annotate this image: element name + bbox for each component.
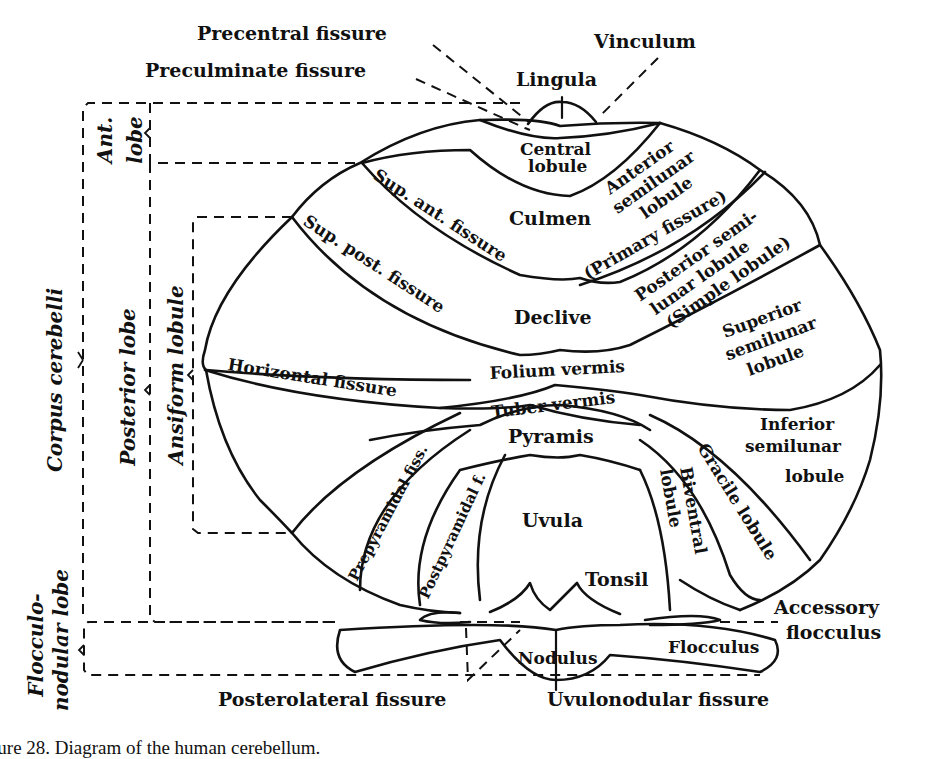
label-nodulus: Nodulus xyxy=(518,648,598,668)
label-inferior-semilunar-2: semilunar xyxy=(745,436,842,456)
label-declive: Declive xyxy=(514,306,592,328)
label-uvulonodular-fissure: Uvulonodular fissure xyxy=(547,688,769,710)
label-preculminate-fissure: Preculminate fissure xyxy=(145,59,366,81)
label-culmen: Culmen xyxy=(509,207,591,229)
label-pyramis: Pyramis xyxy=(508,425,594,447)
cerebellum-diagram: Precentral fissure Preculminate fissure … xyxy=(0,0,946,759)
label-tuber-vermis: Tuber vermis xyxy=(490,387,616,422)
label-tonsil: Tonsil xyxy=(585,568,649,590)
label-sup-post-fissure: Sup. post. fissure xyxy=(300,211,449,317)
cerebellum-outline xyxy=(203,102,882,680)
label-flocculus: Flocculus xyxy=(668,637,759,657)
label-inferior-semilunar-3: lobule xyxy=(785,466,845,486)
label-folium-vermis: Folium vermis xyxy=(489,356,625,383)
label-ant-lobe-2: lobe xyxy=(123,116,147,164)
label-sup-ant-fissure: Sup. ant. fissure xyxy=(370,165,511,266)
flocculonodular-bracket xyxy=(84,622,760,675)
label-accessory-flocculus-2: flocculus xyxy=(786,621,881,643)
label-flocculonodular-2: nodular lobe xyxy=(49,569,73,711)
vinculum-leader xyxy=(598,58,658,118)
figure-caption: Figure 28. Diagram of the human cerebell… xyxy=(0,737,320,758)
label-vinculum: Vinculum xyxy=(593,30,696,52)
label-ansiform-lobule: Ansiform lobule xyxy=(164,285,188,466)
label-posterior-lobe: Posterior lobe xyxy=(116,308,140,467)
label-corpus-cerebelli: Corpus cerebelli xyxy=(43,288,67,472)
label-precentral-fissure: Precentral fissure xyxy=(197,22,387,44)
label-uvula: Uvula xyxy=(522,509,583,531)
ansiform-brace-tip xyxy=(188,370,193,380)
label-flocculonodular-1: Flocculo- xyxy=(24,593,48,697)
ant-lobe-bracket xyxy=(150,103,362,163)
superior-semilunar-lobule-group: Superior semilunar lobule xyxy=(715,291,828,384)
label-lingula: Lingula xyxy=(516,68,597,90)
preculminate-leader xyxy=(416,79,530,130)
label-accessory-flocculus-1: Accessory xyxy=(773,596,880,618)
label-posterolateral-fissure: Posterolateral fissure xyxy=(218,688,446,710)
label-ant-lobe-1: Ant. xyxy=(93,117,117,165)
label-central-lobule-2: lobule xyxy=(528,156,588,176)
label-inferior-semilunar-1: Inferior xyxy=(760,414,835,434)
